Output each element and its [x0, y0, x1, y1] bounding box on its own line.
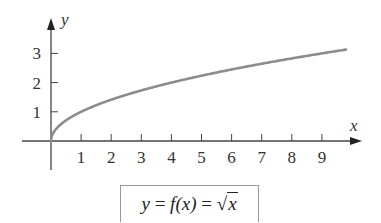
sqrt-symbol-icon: √ — [217, 193, 227, 214]
x-tick-label: 6 — [227, 148, 236, 167]
y-ticks: 123 — [33, 44, 59, 121]
formula-equals: = — [150, 193, 170, 214]
x-axis-label: x — [349, 116, 358, 135]
formula-arg: (x) — [175, 193, 196, 214]
formula-radicand: x — [227, 192, 237, 214]
formula-caption: y = f(x) = √x — [120, 185, 259, 222]
y-tick-label: 2 — [33, 74, 42, 93]
x-tick-label: 3 — [137, 148, 146, 167]
x-tick-label: 1 — [77, 148, 86, 167]
x-tick-label: 7 — [257, 148, 266, 167]
formula-equals-2: = — [196, 193, 216, 214]
y-tick-label: 1 — [33, 103, 42, 122]
x-tick-label: 8 — [288, 148, 297, 167]
y-axis-arrow-icon — [47, 18, 55, 30]
x-tick-label: 4 — [167, 148, 176, 167]
x-tick-label: 9 — [318, 148, 327, 167]
formula-y: y — [141, 193, 149, 214]
y-axis-label: y — [59, 10, 69, 29]
y-tick-label: 3 — [33, 44, 42, 63]
x-tick-label: 5 — [197, 148, 206, 167]
x-axis-arrow-icon — [350, 137, 362, 145]
sqrt-curve — [51, 50, 346, 141]
x-tick-label: 2 — [107, 148, 116, 167]
x-ticks: 123456789 — [77, 134, 326, 167]
